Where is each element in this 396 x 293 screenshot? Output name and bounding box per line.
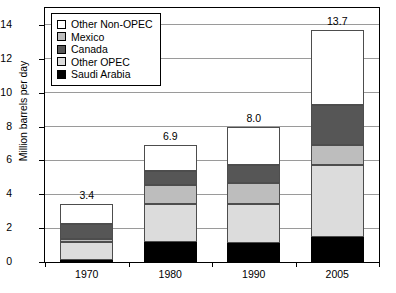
bar-total-label: 8.0 xyxy=(219,112,289,124)
legend-swatch-saudi-arabia xyxy=(57,70,66,79)
x-axis-tick-mark xyxy=(129,263,130,267)
bar-total-label: 3.4 xyxy=(52,189,122,201)
bar-segment-canada xyxy=(144,171,197,185)
x-axis-tick-mark xyxy=(212,263,213,267)
bar-segment-saudi-arabia xyxy=(60,260,113,262)
x-axis-tick-label: 1990 xyxy=(214,268,294,280)
bar-segment-mexico xyxy=(144,185,197,204)
bar-segment-canada xyxy=(311,105,364,145)
y-axis-tick-label: 4 xyxy=(0,188,12,199)
x-axis-tick-label: 2005 xyxy=(297,268,377,280)
bar-segment-other-opec xyxy=(60,242,113,261)
legend-item-label: Other Non-OPEC xyxy=(71,18,153,30)
x-axis-tick-label: 1980 xyxy=(130,268,210,280)
bar-segment-other-non-opec xyxy=(227,127,280,165)
bar-segment-saudi-arabia xyxy=(227,243,280,262)
chart-legend: Other Non-OPECMexicoCanadaOther OPECSaud… xyxy=(51,13,161,86)
y-axis-tick-label: 10 xyxy=(0,87,12,98)
stacked-bar xyxy=(311,8,364,262)
y-axis-tick-label: 8 xyxy=(0,121,12,132)
bar-segment-other-opec xyxy=(311,165,364,237)
y-axis-tick-label: 12 xyxy=(0,53,12,64)
legend-item-label: Mexico xyxy=(71,31,104,43)
legend-swatch-canada xyxy=(57,45,66,54)
legend-item: Other OPEC xyxy=(57,56,153,69)
bar-total-label: 13.7 xyxy=(302,15,372,27)
legend-item: Canada xyxy=(57,43,153,56)
y-axis-tick-label: 6 xyxy=(0,154,12,165)
x-axis-tick-mark xyxy=(379,263,380,267)
x-axis-tick-label: 1970 xyxy=(47,268,127,280)
bar-segment-saudi-arabia xyxy=(311,237,364,262)
bar-total-label: 6.9 xyxy=(135,130,205,142)
chart-figure: Million barrels per day 02468101214 1970… xyxy=(0,0,396,293)
legend-item: Mexico xyxy=(57,31,153,44)
legend-item: Other Non-OPEC xyxy=(57,18,153,31)
legend-item: Saudi Arabia xyxy=(57,68,153,81)
bar-segment-mexico xyxy=(311,145,364,165)
bar-segment-other-opec xyxy=(227,204,280,243)
bar-segment-other-non-opec xyxy=(60,204,113,223)
y-axis-tick-label: 0 xyxy=(0,256,12,267)
legend-swatch-other-opec xyxy=(57,57,66,66)
bar-segment-canada xyxy=(60,224,113,239)
y-axis-tick-label: 2 xyxy=(0,222,12,233)
legend-item-label: Other OPEC xyxy=(71,56,130,68)
bar-segment-other-non-opec xyxy=(311,30,364,105)
y-axis-title: Million barrels per day xyxy=(17,31,29,191)
stacked-bar xyxy=(227,8,280,262)
x-axis-tick-mark xyxy=(45,263,46,267)
legend-swatch-mexico xyxy=(57,32,66,41)
legend-item-label: Saudi Arabia xyxy=(71,68,131,80)
bar-segment-canada xyxy=(227,165,280,184)
x-axis-tick-mark xyxy=(296,263,297,267)
bar-segment-mexico xyxy=(227,183,280,203)
bar-segment-saudi-arabia xyxy=(144,242,197,262)
legend-item-label: Canada xyxy=(71,43,108,55)
bar-segment-other-opec xyxy=(144,204,197,242)
legend-swatch-other-non-opec xyxy=(57,20,66,29)
bar-segment-mexico xyxy=(60,239,113,242)
bar-segment-other-non-opec xyxy=(144,145,197,171)
y-axis-tick-label: 14 xyxy=(0,19,12,30)
